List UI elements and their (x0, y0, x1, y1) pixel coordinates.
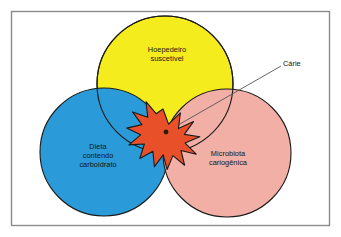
circle-microbiota-cariogenic (163, 89, 291, 217)
venn-diagram-figure: Hoepedeiro suscetível Dieta contendo car… (0, 0, 341, 237)
caries-anchor-dot (164, 130, 169, 135)
venn-diagram-canvas (0, 0, 341, 237)
